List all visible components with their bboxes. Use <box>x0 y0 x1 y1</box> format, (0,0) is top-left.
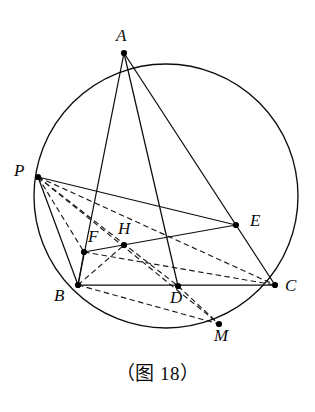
vertex-dot-h <box>121 242 127 248</box>
vertex-dot-b <box>75 282 81 288</box>
vertex-dot-p <box>35 174 41 180</box>
figure-caption: （图 18） <box>0 358 315 385</box>
point-label-b: B <box>54 287 64 304</box>
circle-group <box>34 64 298 328</box>
vertex-dot-e <box>233 222 239 228</box>
point-label-c: C <box>285 277 296 294</box>
vertex-dot-c <box>272 282 278 288</box>
geometry-diagram-canvas <box>0 0 315 412</box>
point-label-e: E <box>250 212 260 229</box>
vertex-dot-a <box>121 50 127 56</box>
segment-P-B <box>38 177 78 285</box>
geometry-figure: APEFHBDCM （图 18） <box>0 0 315 412</box>
segment-F-C <box>84 252 275 285</box>
point-label-a: A <box>116 27 126 44</box>
point-label-p: P <box>14 162 24 179</box>
vertex-dot-f <box>81 249 87 255</box>
point-label-f: F <box>88 228 98 245</box>
point-label-d: D <box>170 289 182 306</box>
segment-F-E <box>84 225 236 252</box>
segment-A-C <box>124 53 275 285</box>
dashed-segments-layer <box>38 177 275 324</box>
segment-B-F <box>78 252 84 285</box>
point-label-h: H <box>118 220 130 237</box>
circumscribed-circle <box>34 64 298 328</box>
segment-A-D <box>124 53 178 286</box>
point-label-m: M <box>214 327 228 344</box>
solid-segments-layer <box>38 53 275 286</box>
